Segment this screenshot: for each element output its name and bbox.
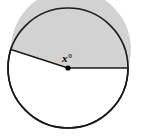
angle-label-x: x° xyxy=(62,53,72,64)
geometry-canvas xyxy=(0,0,147,137)
center-dot xyxy=(65,65,70,70)
circle-sector-figure: x° xyxy=(0,0,147,137)
